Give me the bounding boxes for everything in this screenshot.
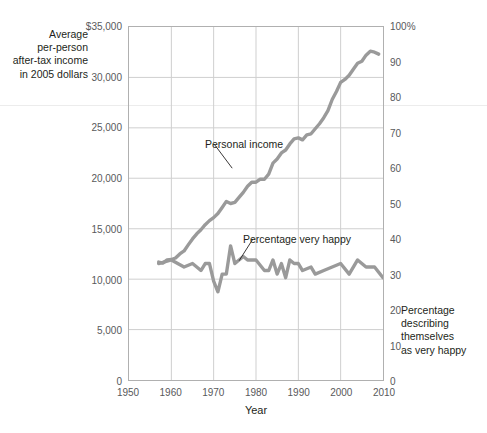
y-tick-right-0: 0 (390, 376, 430, 387)
right-axis-caption: Percentage describing themselves as very… (401, 304, 487, 357)
y-tick-left-5000: 5,000 (62, 325, 122, 336)
annotation-percentage-very-happy: Percentage very happy (243, 233, 351, 245)
right-axis-caption-line-3: as very happy (401, 344, 487, 357)
y-tick-left-0: 0 (62, 376, 122, 387)
gridlines-vertical (171, 27, 340, 380)
x-tick-1950: 1950 (105, 387, 151, 398)
y-tick-right-60: 60 (390, 163, 430, 174)
x-tick-2000: 2000 (318, 387, 364, 398)
y-tick-left-35000: $35,000 (62, 21, 122, 32)
y-tick-right-80: 80 (390, 92, 430, 103)
y-tick-left-30000: 30,000 (62, 72, 122, 83)
plot-area (128, 26, 384, 381)
y-tick-right-40: 40 (390, 234, 430, 245)
chart-container: Average per-person after-tax income in 2… (0, 0, 487, 433)
left-axis-caption-line-1: per-person (4, 41, 88, 54)
y-tick-right-90: 90 (390, 57, 430, 68)
right-axis-caption-line-2: themselves (401, 330, 487, 343)
x-tick-1990: 1990 (276, 387, 322, 398)
plot-svg (129, 27, 383, 380)
x-tick-1960: 1960 (148, 387, 194, 398)
y-tick-left-15000: 15,000 (62, 224, 122, 235)
x-tick-2010: 2010 (361, 387, 407, 398)
y-tick-left-25000: 25,000 (62, 122, 122, 133)
y-tick-left-20000: 20,000 (62, 173, 122, 184)
left-axis-caption-line-2: after-tax income (4, 54, 88, 67)
right-axis-caption-line-1: describing (401, 317, 487, 330)
y-tick-right-70: 70 (390, 128, 430, 139)
annotation-personal-income: Personal income (205, 138, 283, 150)
y-tick-left-10000: 10,000 (62, 275, 122, 286)
y-tick-right-50: 50 (390, 199, 430, 210)
x-tick-1970: 1970 (190, 387, 236, 398)
series-line-percentage-very-happy (159, 246, 383, 292)
x-axis-title: Year (128, 404, 384, 416)
right-axis-caption-line-0: Percentage (401, 304, 487, 317)
x-tick-1980: 1980 (233, 387, 279, 398)
y-tick-right-100: 100% (390, 21, 430, 32)
series-line-personal-income (159, 51, 379, 263)
y-tick-right-30: 30 (390, 270, 430, 281)
